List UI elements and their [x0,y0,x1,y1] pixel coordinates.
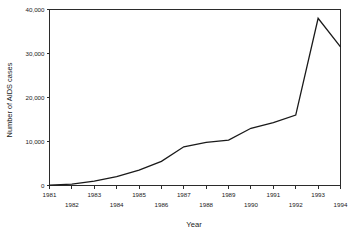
y-tick-label: 30,000 [26,50,45,57]
x-tick-label: 1981 [43,191,57,198]
y-tick-label: 10,000 [26,138,45,145]
chart-container: 010,00020,00030,00040,000 19811982198319… [0,0,355,236]
x-tick-label: 1985 [132,191,146,198]
x-axis-title: Year [186,220,202,229]
aids-cases-line-chart: 010,00020,00030,00040,000 19811982198319… [0,0,355,236]
x-tick-label: 1993 [311,191,325,198]
y-tick-label: 20,000 [26,94,45,101]
y-tick-label: 0 [41,182,45,189]
x-tick-label: 1982 [65,201,79,208]
x-tick-label: 1987 [177,191,191,198]
y-axis-title: Number of AIDS cases [5,62,14,137]
y-tick-label: 40,000 [26,6,45,13]
x-tick-label: 1989 [222,191,236,198]
x-tick-label: 1986 [155,201,169,208]
x-tick-label: 1992 [289,201,303,208]
x-tick-label: 1994 [334,201,348,208]
x-tick-label: 1991 [266,191,280,198]
x-tick-label: 1984 [110,201,124,208]
x-tick-label: 1983 [87,191,101,198]
x-tick-label: 1988 [199,201,213,208]
x-tick-label: 1990 [244,201,258,208]
